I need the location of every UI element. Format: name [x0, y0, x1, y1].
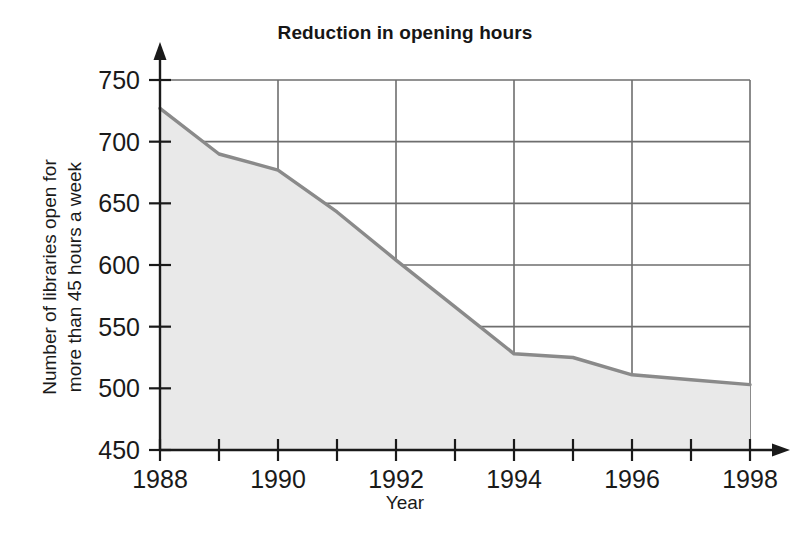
x-tick-label: 1998: [722, 465, 778, 493]
x-tick-label: 1996: [604, 465, 660, 493]
y-axis-arrowhead: [154, 42, 167, 60]
x-axis-tick-labels: 198819901992199419961998: [132, 465, 778, 493]
y-tick-label: 450: [98, 436, 140, 464]
y-tick-label: 600: [98, 251, 140, 279]
chart-container: Reduction in opening hours 4505005506006…: [0, 0, 810, 541]
y-axis-tick-labels: 450500550600650700750: [98, 66, 140, 464]
area-fill-path: [160, 108, 750, 450]
y-tick-label: 750: [98, 66, 140, 94]
y-tick-label: 500: [98, 374, 140, 402]
x-axis-arrowhead: [772, 444, 790, 457]
x-tick-label: 1992: [368, 465, 424, 493]
chart-plot-area: 450500550600650700750 198819901992199419…: [0, 0, 810, 541]
x-tick-label: 1994: [486, 465, 542, 493]
x-axis-title: Year: [0, 492, 810, 514]
y-tick-label: 550: [98, 313, 140, 341]
y-tick-label: 700: [98, 128, 140, 156]
y-axis: 450500550600650700750: [98, 42, 171, 464]
x-tick-label: 1990: [250, 465, 306, 493]
x-tick-label: 1988: [132, 465, 188, 493]
y-tick-label: 650: [98, 189, 140, 217]
